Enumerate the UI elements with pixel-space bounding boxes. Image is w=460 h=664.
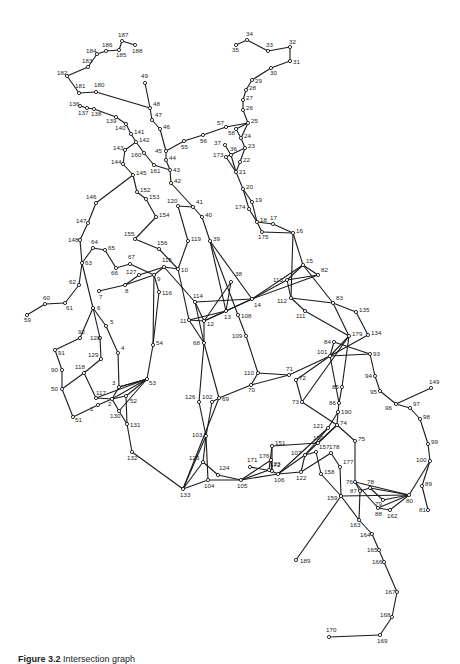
node-label: 96: [385, 404, 392, 411]
node-marker: [327, 635, 330, 638]
node-label: 173: [213, 151, 224, 158]
node-label: 44: [169, 154, 176, 161]
graph-node: 133: [180, 487, 191, 498]
node-label: 186: [102, 41, 113, 48]
node-label: 118: [75, 363, 85, 370]
node-marker: [288, 45, 291, 48]
graph-edge: [189, 320, 204, 321]
graph-edge: [241, 474, 278, 480]
graph-edge: [420, 419, 428, 444]
graph-edge: [178, 269, 189, 320]
node-label: 62: [69, 278, 76, 285]
graph-edge: [271, 61, 290, 68]
graph-node: 58: [228, 127, 238, 136]
node-marker: [91, 306, 94, 309]
graph-node: 15: [301, 257, 313, 267]
node-marker: [255, 220, 258, 223]
node-marker: [358, 489, 361, 492]
node-label: 24: [244, 132, 251, 139]
node-marker: [291, 231, 294, 234]
node-marker: [420, 484, 423, 487]
graph-edge: [105, 250, 116, 268]
graph-node: 147: [76, 217, 90, 225]
graph-edge: [380, 617, 392, 635]
node-label: 67: [128, 253, 135, 260]
graph-node: 149: [429, 378, 440, 390]
graph-edge: [132, 452, 183, 489]
graph-node: 65: [103, 244, 115, 252]
node-label: 165: [367, 546, 378, 553]
graph-edge: [80, 223, 88, 240]
graph-node: 144: [111, 158, 125, 166]
graph-node: 34: [245, 30, 253, 42]
graph-node: 30: [269, 66, 277, 76]
node-label: 104: [204, 482, 215, 489]
node-marker: [368, 352, 371, 355]
graph-edge: [316, 452, 321, 474]
node-label: 59: [24, 316, 31, 323]
node-marker: [120, 39, 123, 42]
node-label: 168: [380, 611, 391, 618]
graph-node: 184: [86, 47, 99, 56]
graph-node: 163: [350, 518, 361, 528]
node-label: 189: [300, 557, 311, 564]
node-label: 164: [360, 531, 371, 538]
node-label: 2: [108, 400, 112, 407]
graph-node: 146: [86, 193, 98, 205]
node-label: 119: [191, 235, 201, 242]
graph-node: 127: [126, 268, 141, 277]
node-marker: [243, 146, 246, 149]
node-marker: [135, 190, 138, 193]
node-marker: [210, 400, 213, 403]
node-marker: [131, 173, 134, 176]
graph-node: 187: [118, 31, 129, 43]
node-label: 75: [358, 435, 365, 442]
graph-edge: [146, 199, 156, 217]
graph-node: 148: [68, 236, 82, 243]
graph-node: 182: [57, 69, 69, 78]
graph-node: 13: [224, 309, 231, 320]
node-marker: [347, 334, 350, 337]
graph-edge: [178, 206, 193, 207]
node-marker: [429, 386, 432, 389]
node-marker: [250, 78, 253, 81]
node-label: 60: [43, 294, 50, 301]
node-marker: [176, 204, 179, 207]
graph-node: 116: [157, 289, 172, 296]
node-label: 85: [332, 383, 339, 390]
graph-edge: [206, 436, 208, 480]
node-label: 28: [249, 84, 256, 91]
graph-edge: [125, 275, 139, 285]
node-label: 176: [259, 452, 270, 459]
node-marker: [204, 434, 207, 437]
node-marker: [202, 319, 205, 322]
node-label: 5: [110, 318, 114, 325]
node-label: 110: [244, 369, 254, 376]
node-marker: [142, 151, 145, 154]
graph-edge: [96, 398, 112, 399]
node-marker: [394, 402, 397, 405]
node-label: 138: [91, 110, 102, 117]
node-marker: [241, 187, 244, 190]
node-marker: [168, 168, 171, 171]
node-marker: [353, 439, 356, 442]
node-label: 46: [163, 123, 170, 130]
graph-node: 138: [91, 107, 102, 117]
graph-node: 167: [385, 588, 399, 595]
node-label: 83: [336, 294, 343, 301]
graph-edge: [82, 263, 93, 308]
node-marker: [96, 403, 99, 406]
graph-edge: [100, 338, 101, 359]
node-label: 89: [425, 480, 432, 487]
graph-node: 112: [277, 296, 293, 304]
node-marker: [86, 65, 89, 68]
node-label: 97: [413, 400, 420, 407]
graph-node: 53: [145, 377, 156, 386]
node-label: 80: [406, 497, 413, 504]
node-label: 135: [359, 306, 370, 313]
graph-edge: [178, 206, 188, 241]
graph-edge: [251, 375, 289, 385]
graph-edge: [330, 356, 339, 403]
node-marker: [229, 153, 232, 156]
node-label: 184: [86, 47, 97, 54]
